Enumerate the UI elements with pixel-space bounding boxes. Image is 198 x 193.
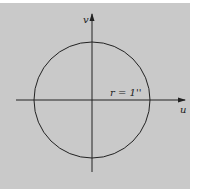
radius-label: r = 1'': [110, 87, 141, 98]
u-axis-label: u: [180, 104, 186, 115]
unit-circle-diagram: v u r = 1'': [0, 0, 198, 193]
v-axis-label: v: [83, 14, 89, 25]
